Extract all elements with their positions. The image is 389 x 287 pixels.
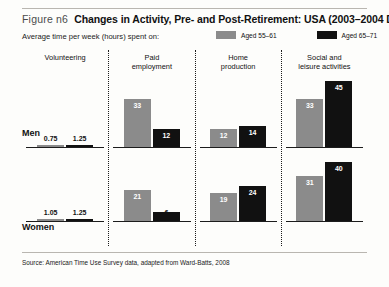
panel-header: Homeproduction: [196, 50, 281, 74]
figure-source: Source: American Time Use Survey data, a…: [22, 259, 230, 266]
legend-swatch-black: [317, 31, 337, 39]
axis-baseline: [200, 221, 277, 222]
bar-group-men: 3312: [109, 74, 194, 148]
bars: 3312: [109, 75, 194, 147]
bar-value-label: 31: [296, 179, 323, 186]
bar-group-women: 3140: [282, 148, 367, 222]
bars: 216: [109, 149, 194, 221]
bar-value-label: 33: [124, 102, 151, 109]
bars: 1924: [196, 149, 281, 221]
bar-men-aged-55-61: 12: [210, 129, 237, 147]
axis-baseline: [113, 221, 190, 222]
legend-swatch-grey: [216, 31, 236, 39]
top-divider: [22, 8, 367, 9]
bars: 1.051.25: [22, 149, 108, 221]
legend-item-aged-55-61: Aged 55–61: [216, 31, 277, 39]
bar-women-aged-55-61: 21: [124, 190, 151, 221]
panel-header: Volunteering: [22, 50, 108, 74]
bar-value-label: 6: [153, 209, 180, 216]
panel-header-line2: leisure activities: [282, 62, 367, 71]
bottom-divider: [22, 252, 367, 253]
bar-women-aged-55-61: 19: [210, 193, 237, 221]
bar-group-women: 1.051.25: [22, 148, 108, 222]
figure-subtitle: Average time per week (hours) spent on:: [22, 32, 159, 41]
bar-value-label: 0.75: [37, 135, 64, 142]
bar-women-aged-55-61: 31: [296, 176, 323, 221]
panel-header: Social andleisure activities: [282, 50, 367, 74]
axis-baseline: [286, 221, 363, 222]
figure-title-row: Figure n6 Changes in Activity, Pre- and …: [22, 13, 389, 25]
bar-value-label: 40: [325, 165, 352, 172]
bar-value-label: 45: [325, 84, 352, 91]
chart-legend: Aged 55–61 Aged 65–71: [216, 31, 377, 39]
bar-value-label: 1.25: [66, 209, 93, 216]
panel-social-and-leisure-activities: Social andleisure activities33453140: [281, 50, 367, 246]
bar-group-men: 3345: [282, 74, 367, 148]
bar-group-women: 216: [109, 148, 194, 222]
figure-container: Figure n6 Changes in Activity, Pre- and …: [0, 0, 389, 287]
panel-volunteering: Volunteering0.751.251.051.25: [22, 50, 108, 246]
panel-header-line1: Social and: [282, 53, 367, 62]
bar-group-men: 0.751.25: [22, 74, 108, 148]
bar-group-men: 1214: [196, 74, 281, 148]
panel-header: Paidemployment: [109, 50, 194, 74]
axis-baseline: [26, 221, 104, 222]
bar-men-aged-65-71: 45: [325, 81, 352, 147]
bar-value-label: 21: [124, 193, 151, 200]
figure-number: Figure n6: [22, 13, 68, 25]
panel-paid-employment: Paidemployment3312216: [108, 50, 194, 246]
panel-header-line2: production: [196, 62, 281, 71]
bar-value-label: 14: [239, 129, 266, 136]
bar-value-label: 12: [153, 132, 180, 139]
bar-men-aged-55-61: 33: [296, 99, 323, 147]
bar-value-label: 12: [210, 132, 237, 139]
panel-header-line2: employment: [109, 62, 194, 71]
panel-header-line1: Home: [196, 53, 281, 62]
bar-group-women: 1924: [196, 148, 281, 222]
bar-women-aged-65-71: 40: [325, 162, 352, 220]
bars: 1214: [196, 75, 281, 147]
legend-item-aged-65-71: Aged 65–71: [317, 31, 378, 39]
bar-men-aged-55-61: 33: [124, 99, 151, 147]
bar-women-aged-65-71: 6: [153, 212, 180, 221]
bar-value-label: 19: [210, 196, 237, 203]
legend-label-aged-65-71: Aged 65–71: [342, 32, 378, 39]
bar-men-aged-65-71: 12: [153, 129, 180, 147]
bars: 3140: [282, 149, 367, 221]
bar-women-aged-65-71: 24: [239, 186, 266, 221]
bar-value-label: 33: [296, 102, 323, 109]
panel-home-production: Homeproduction12141924: [195, 50, 281, 246]
bar-value-label: 24: [239, 189, 266, 196]
bars: 0.751.25: [22, 75, 108, 147]
panel-header-line1: Volunteering: [22, 53, 108, 62]
chart-panels: Volunteering0.751.251.051.25Paidemployme…: [22, 50, 367, 246]
legend-label-aged-55-61: Aged 55–61: [241, 32, 277, 39]
bar-value-label: 1.25: [66, 135, 93, 142]
bars: 3345: [282, 75, 367, 147]
panel-header-line1: Paid: [109, 53, 194, 62]
page-title: Changes in Activity, Pre- and Post-Retir…: [74, 13, 389, 25]
bar-value-label: 1.05: [37, 209, 64, 216]
bar-men-aged-65-71: 14: [239, 126, 266, 146]
